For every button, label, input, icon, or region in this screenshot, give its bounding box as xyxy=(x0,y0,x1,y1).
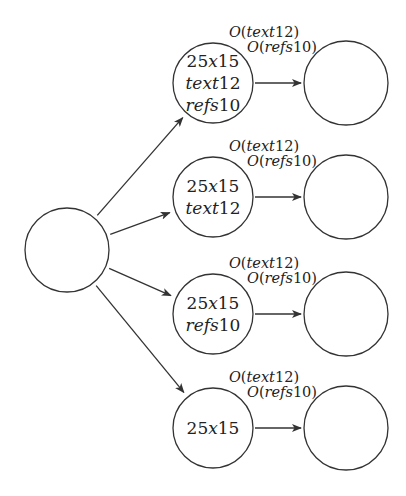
complexity-annotation-text: O(text12) xyxy=(229,255,299,271)
node-label: 25x15 xyxy=(187,176,240,196)
node-label: refs10 xyxy=(186,315,241,335)
node-label: 25x15 xyxy=(187,418,240,438)
complexity-annotation-refs: O(refs10) xyxy=(247,39,317,55)
complexity-annotation-text: O(text12) xyxy=(229,138,299,154)
branch-row: 25x15text12O(text12)O(refs10) xyxy=(173,138,388,239)
root-node xyxy=(25,208,109,292)
middle-node xyxy=(173,274,253,354)
node-label: text12 xyxy=(186,73,241,93)
edge-root-to-middle xyxy=(109,268,171,295)
tree-diagram: 25x15text12refs10O(text12)O(refs10)25x15… xyxy=(0,0,406,496)
branch-row: 25x15refs10O(text12)O(refs10) xyxy=(173,255,388,356)
edge-root-to-middle xyxy=(96,286,184,393)
node-label: 25x15 xyxy=(187,293,240,313)
complexity-annotation-text: O(text12) xyxy=(229,369,299,385)
branch-row: 25x15O(text12)O(refs10) xyxy=(173,369,388,470)
middle-node xyxy=(173,157,253,237)
complexity-annotation-refs: O(refs10) xyxy=(247,270,317,286)
node-label: text12 xyxy=(186,198,241,218)
complexity-annotation-refs: O(refs10) xyxy=(247,153,317,169)
node-label: refs10 xyxy=(186,95,241,115)
edge-root-to-middle xyxy=(97,118,182,216)
complexity-annotation-refs: O(refs10) xyxy=(247,384,317,400)
edge-root-to-middle xyxy=(110,213,170,235)
complexity-annotation-text: O(text12) xyxy=(229,24,299,40)
node-label: 25x15 xyxy=(187,51,240,71)
branch-row: 25x15text12refs10O(text12)O(refs10) xyxy=(173,24,388,125)
